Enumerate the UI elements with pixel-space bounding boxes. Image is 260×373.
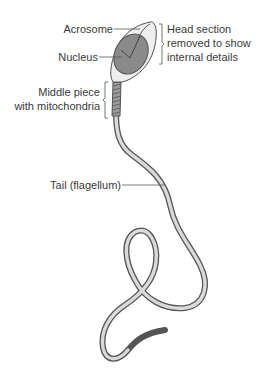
head-note-line2: removed to show [167,37,251,50]
acrosome-label: Acrosome [63,23,113,36]
tail-flagellum [102,112,205,359]
middle-piece-line2: with mitochondria [14,100,100,113]
tail-label: Tail (flagellum) [50,179,121,192]
sperm-diagram: Acrosome Nucleus Head section removed to… [0,0,260,373]
middle-piece [112,82,121,116]
head-note-line3: internal details [167,51,238,64]
head-note-line1: Head section [167,23,231,36]
middle-piece-line1: Middle piece [38,86,100,99]
nucleus-label: Nucleus [58,51,98,64]
head [107,22,156,82]
